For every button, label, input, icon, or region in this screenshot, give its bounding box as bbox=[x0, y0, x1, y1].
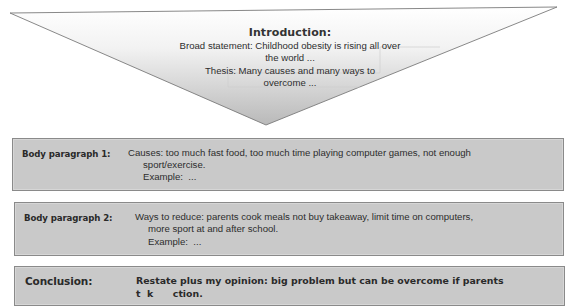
body-paragraph-1-label: Body paragraph 1: bbox=[22, 149, 110, 159]
body-paragraph-1-example: Example: ... bbox=[143, 171, 196, 184]
intro-broad-statement-line2: the world ... bbox=[150, 52, 430, 64]
intro-thesis-line2: overcome ... bbox=[150, 77, 430, 89]
conclusion-label: Conclusion: bbox=[25, 275, 92, 287]
intro-thesis-line1: Thesis: Many causes and many ways to bbox=[150, 65, 430, 77]
conclusion-box: Conclusion: Restate plus my opinion: big… bbox=[14, 266, 565, 306]
body-paragraph-2-ways-cont: more sport at and after school. bbox=[148, 223, 278, 236]
conclusion-restate-cont: t k ction. bbox=[136, 287, 203, 301]
body-paragraph-2-example: Example: ... bbox=[148, 236, 201, 249]
body-paragraph-1-box: Body paragraph 1: Causes: too much fast … bbox=[12, 138, 564, 191]
body-paragraph-2-ways: Ways to reduce: parents cook meals not b… bbox=[135, 211, 473, 224]
introduction-text: Introduction: Broad statement: Childhood… bbox=[150, 27, 430, 89]
intro-broad-statement-line1: Broad statement: Childhood obesity is ri… bbox=[150, 40, 430, 52]
body-paragraph-2-box: Body paragraph 2: Ways to reduce: parent… bbox=[14, 202, 564, 256]
introduction-title: Introduction: bbox=[150, 27, 430, 39]
body-paragraph-2-label: Body paragraph 2: bbox=[24, 213, 112, 223]
body-paragraph-1-causes-cont: sport/exercise. bbox=[143, 159, 205, 172]
body-paragraph-1-causes: Causes: too much fast food, too much tim… bbox=[128, 147, 471, 160]
conclusion-restate: Restate plus my opinion: big problem but… bbox=[136, 274, 504, 288]
